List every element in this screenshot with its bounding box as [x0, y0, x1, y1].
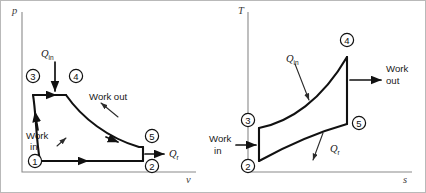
pv-y-axis-label: p [11, 5, 17, 16]
pv-state-5-label: 5 [149, 131, 154, 142]
pv-state-marker-3: 3 [26, 69, 39, 82]
pv-work-in-label-line1: Work [26, 130, 48, 141]
ts-process-3-4 [259, 57, 347, 128]
ts-work-out-label-line2: out [386, 75, 400, 86]
thermodynamic-cycle-figure: p v Qin Work out Work in [0, 0, 426, 193]
ts-state-3-label: 3 [245, 115, 250, 126]
ts-state-marker-4: 4 [340, 33, 353, 46]
ts-state-4-label: 4 [344, 35, 349, 46]
figure-border [1, 1, 426, 193]
pv-state-2-label: 2 [149, 161, 154, 172]
ts-state-marker-5: 5 [352, 116, 365, 129]
pv-state-marker-5: 5 [145, 129, 158, 142]
ts-y-axis-label: T [238, 5, 245, 16]
pv-q-r-label: Qr [169, 148, 180, 161]
pv-state-marker-4: 4 [69, 69, 82, 82]
ts-state-marker-2: 2 [241, 159, 254, 172]
pv-state-1-label: 1 [32, 156, 37, 167]
ts-q-r-subscript: r [338, 149, 341, 156]
pv-q-r-subscript: r [177, 154, 180, 161]
pv-state-marker-2: 2 [145, 159, 158, 172]
pv-x-axis-label: v [186, 174, 191, 185]
pv-work-out-label: Work out [89, 91, 128, 102]
pv-state-4-label: 4 [73, 71, 78, 82]
ts-q-in-label: Qin [286, 53, 299, 66]
ts-x-axis-label: s [403, 174, 407, 185]
pv-diagram-panel: p v Qin Work out Work in [11, 5, 196, 185]
pv-work-in-label-line2: in [30, 141, 37, 152]
ts-work-in-label-line2: in [214, 145, 221, 156]
figure-canvas: p v Qin Work out Work in [0, 0, 426, 193]
pv-q-in-label: Qin [41, 48, 54, 61]
pv-state-marker-1: 1 [28, 154, 41, 167]
ts-state-marker-3: 3 [241, 113, 254, 126]
pv-work-in-leader [57, 138, 66, 146]
pv-process-4-5 [66, 95, 143, 147]
pv-work-out-leader [101, 103, 118, 117]
ts-work-out-label-line1: Work [386, 63, 408, 74]
ts-diagram-panel: T s Qin Qr Work out Work [209, 5, 412, 185]
ts-q-in-subscript: in [294, 59, 299, 66]
ts-q-in-leader [295, 64, 309, 100]
ts-work-in-label-line1: Work [209, 133, 231, 144]
ts-state-2-label: 2 [245, 161, 250, 172]
ts-q-r-label: Qr [330, 143, 341, 156]
pv-state-3-label: 3 [30, 71, 35, 82]
pv-q-in-subscript: in [49, 54, 54, 61]
ts-q-r-leader [313, 133, 323, 160]
ts-state-5-label: 5 [356, 118, 361, 129]
